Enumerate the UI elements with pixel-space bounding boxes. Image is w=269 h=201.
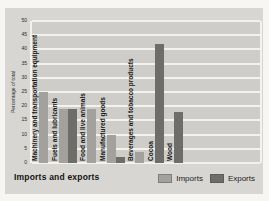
- gridline: [32, 48, 260, 50]
- bar-imports-0: [39, 92, 48, 163]
- y-tick-label-0: 0: [24, 160, 27, 165]
- category-label-4: Beverages and tobacco products: [127, 58, 134, 163]
- category-label-0: Machinery and transportation equipment: [31, 35, 38, 163]
- bar-exports-6: [174, 112, 183, 163]
- gridline: [32, 91, 260, 93]
- gridline: [32, 77, 260, 79]
- bar-imports-4: [135, 152, 144, 163]
- gridline: [32, 20, 260, 22]
- category-label-5: Cocoa: [147, 141, 154, 163]
- legend: Imports Exports: [158, 174, 255, 183]
- legend-label-exports: Exports: [228, 174, 255, 183]
- legend-item-exports: Exports: [210, 174, 255, 183]
- plot-area: Machinery and transportation equipmentFu…: [30, 21, 262, 163]
- category-label-2: Food and live animals: [79, 93, 86, 163]
- chart-title: Imports and exports: [14, 172, 100, 182]
- y-tick-label-10: 10: [21, 132, 27, 137]
- bar-imports-2: [87, 109, 96, 163]
- bar-imports-3: [107, 135, 116, 163]
- gridline: [32, 34, 260, 36]
- category-label-3: Manufactured goods: [99, 97, 106, 163]
- bar-imports-1: [59, 109, 68, 163]
- y-tick-label-30: 30: [21, 75, 27, 80]
- y-tick-label-40: 40: [21, 46, 27, 51]
- bar-exports-5: [155, 44, 164, 163]
- y-tick-label-25: 25: [21, 89, 27, 94]
- y-tick-label-45: 45: [21, 32, 27, 37]
- y-axis: 05101520253035404550: [16, 21, 29, 163]
- y-tick-label-15: 15: [21, 117, 27, 122]
- exports-swatch-icon: [210, 174, 224, 183]
- chart-panel: Percentage of total 05101520253035404550…: [5, 8, 263, 194]
- legend-item-imports: Imports: [158, 174, 203, 183]
- y-tick-label-35: 35: [21, 61, 27, 66]
- imports-swatch-icon: [158, 174, 172, 183]
- category-label-6: Wood: [166, 143, 173, 163]
- bar-exports-1: [68, 109, 77, 163]
- legend-label-imports: Imports: [176, 174, 203, 183]
- y-tick-label-50: 50: [21, 18, 27, 23]
- gridline: [32, 105, 260, 107]
- gridline: [32, 63, 260, 65]
- category-label-1: Fuels and lubricants: [51, 98, 58, 163]
- y-tick-label-20: 20: [21, 103, 27, 108]
- bar-exports-3: [116, 157, 125, 163]
- y-tick-label-5: 5: [24, 146, 27, 151]
